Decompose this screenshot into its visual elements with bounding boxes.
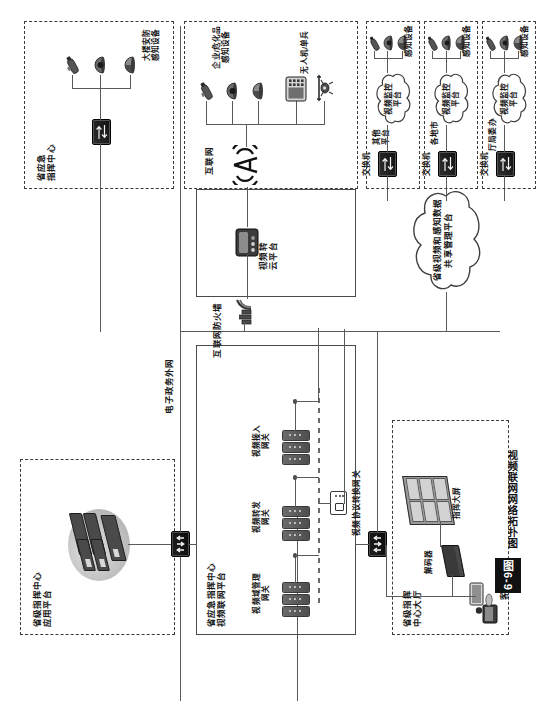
bus-drop-3 [295, 401, 319, 402]
video-domain-mgmt-gateway-label: 视频域管理 网关 [252, 565, 270, 621]
video-forward-gateway-label: 视频转发 网关 [252, 489, 270, 545]
router2-to-backbone [377, 331, 378, 533]
decoder-label: 解码器 [424, 535, 433, 589]
rack-domain-1 [282, 606, 310, 617]
uav-icon [312, 73, 340, 103]
uav-soldier-label: 无人机/单兵 [300, 23, 309, 81]
internet-cam-link-3 [258, 101, 259, 125]
decoder-to-bus [452, 575, 453, 597]
camera-dome-emergency-2 [120, 53, 144, 77]
forward-gw-link [295, 478, 296, 508]
sensing-devices-departments-label: 感知设备 [520, 21, 529, 61]
domain-gw-link [295, 556, 296, 584]
internet-uav-link-2 [324, 101, 325, 125]
emergency-cam-link-2 [100, 75, 101, 89]
switch-depts-to-cloud [504, 125, 505, 153]
zone-provincial-emergency-center-label: 省应急 指挥中心 [36, 105, 56, 181]
internet-cam-link-2 [232, 101, 233, 125]
server-cluster-link [128, 544, 177, 545]
camera-dome-emergency-1 [90, 53, 114, 77]
protoconv-to-backbone [344, 329, 345, 504]
backbone-to-share-cloud [446, 292, 447, 332]
camera-dome-enterprise-2 [248, 79, 272, 103]
zone-provincial-video-network-platform-label: 省应急指挥中心 视频联网平台 [206, 517, 226, 627]
share-mgmt-platform-label: 省级视频和感知数据 共享管理平台 [432, 193, 454, 287]
surveillance-platform-other-label: 视频监控 平台 [384, 75, 402, 123]
video-access-gateway-label: 视频接入 网关 [252, 413, 270, 469]
switch-cities-to-cloud [446, 125, 447, 153]
hall-to-router2 [386, 545, 387, 597]
internet-antenna-icon [228, 145, 266, 185]
internet-firewall-label: 互联网防火墙 [212, 291, 222, 369]
emergency-cam-link-1 [72, 75, 73, 89]
server-cluster [72, 511, 128, 575]
camera-bullet-enterprise [196, 79, 220, 103]
emergency-cam-link-3 [130, 75, 131, 89]
switch-other-to-cloud [387, 125, 388, 153]
camera-dome-enterprise-1 [222, 79, 246, 103]
figure-caption: 视频联网网络拓扑图 [504, 450, 519, 549]
building-security-sensing-label: 大楼安防 感知设备 [142, 17, 160, 73]
router1-to-backbone [180, 323, 181, 533]
surveillance-platform-cities-label: 视频监控 平台 [442, 75, 460, 123]
surveillance-platform-departments-label: 视频监控 平台 [500, 75, 518, 123]
figure-number-tag: 图6-9 [495, 558, 521, 593]
rack-forward-2 [282, 518, 310, 529]
command-bigscreen-label: 指挥大屏 [452, 473, 461, 533]
zone-provincial-app-platform-label: 省级指挥中心 应用平台 [32, 537, 52, 627]
router-to-platform [188, 544, 197, 545]
firewall-to-cloud [247, 255, 248, 299]
bus-drop-1 [295, 555, 319, 556]
other-cloud-fanout [387, 59, 388, 73]
sensing-devices-other-label: 感知设备 [404, 21, 413, 61]
command-bigscreen [402, 476, 455, 525]
platform-to-router2 [356, 544, 369, 545]
router-joint [188, 543, 189, 545]
internet-fanout [246, 125, 247, 147]
internet-label: 互联网 [204, 141, 214, 181]
video-protocol-convert-gateway-label: 视频协议转换网关 [352, 455, 361, 551]
enterprise-hazchem-sensing-label: 企业/危化品 感知设备 [212, 19, 230, 75]
switch-emergency-center[interactable] [92, 119, 111, 145]
internet-cam-link-1 [206, 101, 207, 125]
accessgw-to-backbone [318, 328, 319, 402]
router-core-bottom[interactable] [368, 531, 387, 557]
cities-cloud-fanout [446, 59, 447, 73]
cloud-to-internet [247, 187, 248, 227]
bus-drop-2 [295, 477, 319, 478]
egov-extranet-label: 电子政务外网 [164, 351, 174, 421]
sensing-devices-cities-label: 感知设备 [462, 21, 471, 61]
rack-domain-2 [282, 594, 310, 605]
depts-cloud-fanout [504, 59, 505, 73]
rack-access-2 [282, 442, 310, 453]
egov-to-emergency-switch [100, 144, 101, 332]
client-riser [454, 596, 476, 597]
backbone-to-firewall [244, 322, 245, 332]
platform-internal-bus [318, 383, 320, 603]
camera-bullet-emergency [62, 53, 86, 77]
backbone-vertical [180, 331, 500, 332]
rack-forward-1 [282, 530, 310, 541]
hall-riser [386, 596, 454, 597]
decoder-to-screen [440, 521, 441, 547]
zone-provincial-command-hall-label: 省级指挥 中心大厅 [402, 541, 422, 627]
protoconv-up-link [318, 503, 331, 504]
access-gw-link [295, 402, 296, 432]
rack-access-1 [282, 454, 310, 465]
internet-uav-link-1 [296, 101, 297, 125]
internet-fanout-bus [206, 124, 324, 125]
video-cloud-platform-device [234, 227, 264, 257]
emergency-switch-fanout [100, 89, 101, 121]
